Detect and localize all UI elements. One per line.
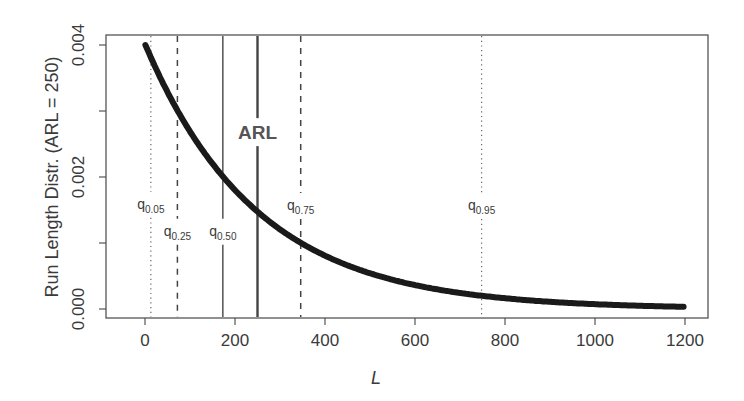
x-tick-label: 1200 [666,331,704,350]
x-tick-label: 200 [221,331,249,350]
y-tick-label: 0.002 [69,156,88,199]
x-axis: 020040060080010001200 [140,318,704,350]
chart-svg: q0.05q0.25q0.50q0.75q0.95 ARL 0200400600… [0,0,744,401]
run-length-distribution-chart: q0.05q0.25q0.50q0.75q0.95 ARL 0200400600… [0,0,744,401]
quantile-labels: q0.05q0.25q0.50q0.75q0.95 [137,196,495,242]
quantile-label-0-50: q0.50 [209,223,237,242]
run-length-pmf-curve [145,45,683,307]
x-tick-label: 400 [311,331,339,350]
quantile-label-0-95: q0.95 [468,197,496,216]
arl-label: ARL [238,122,277,143]
x-tick-label: 1000 [576,331,614,350]
vertical-reference-lines [151,36,482,317]
x-tick-label: 600 [401,331,429,350]
y-axis: 0.0000.0020.004 [69,24,106,331]
quantile-label-0-05: q0.05 [137,196,165,215]
plot-area-frame [106,35,708,318]
x-tick-label: 800 [491,331,519,350]
y-tick-label: 0.000 [69,288,88,331]
x-axis-title: L [371,368,381,388]
quantile-label-0-75: q0.75 [287,197,315,216]
x-tick-label: 0 [140,331,149,350]
quantile-label-0-25: q0.25 [164,223,192,242]
y-tick-label: 0.004 [69,24,88,67]
y-axis-title: Run Length Distr. (ARL = 250) [42,57,62,298]
